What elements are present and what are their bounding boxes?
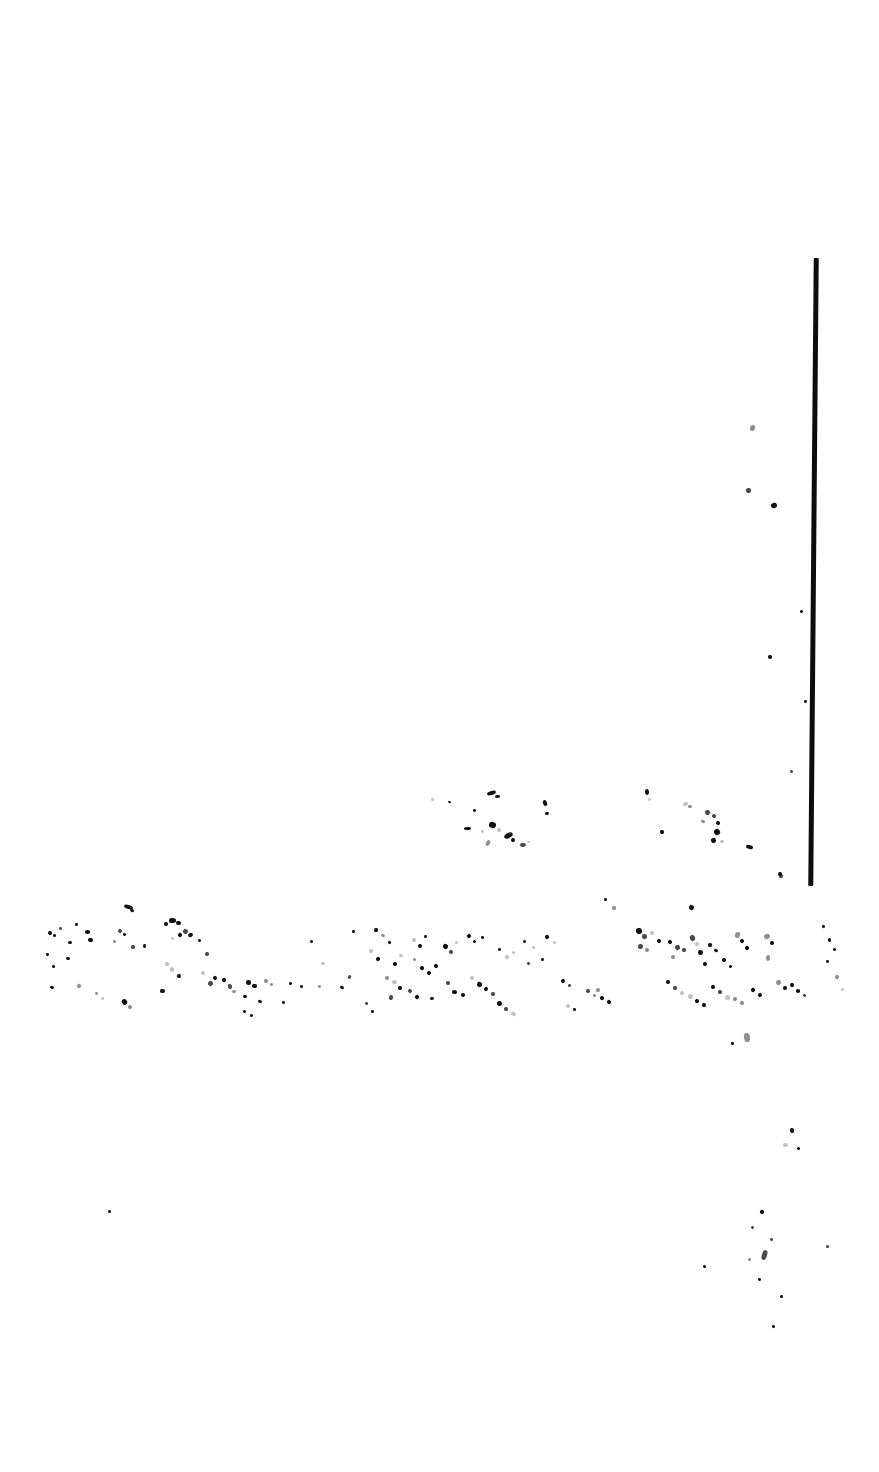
main-band-speck: [446, 981, 451, 986]
main-band-speck: [473, 940, 477, 944]
upper-band-speck: [645, 789, 649, 795]
main-band-speck: [734, 931, 741, 938]
sparse-speck: [746, 488, 752, 494]
main-band-speck: [392, 980, 397, 985]
main-band-speck: [76, 983, 81, 988]
main-band-speck: [52, 933, 56, 937]
main-band-speck: [840, 987, 844, 991]
main-band-speck: [88, 938, 94, 943]
main-band-speck: [644, 947, 649, 952]
sparse-speck: [759, 1209, 764, 1214]
main-band-speck: [466, 933, 472, 939]
main-band-speck: [221, 977, 226, 982]
main-band-speck: [656, 938, 661, 943]
main-band-speck: [399, 954, 404, 958]
upper-band-speck: [688, 904, 694, 910]
main-band-speck: [702, 1003, 707, 1008]
main-band-speck: [85, 930, 90, 934]
main-band-speck: [269, 982, 273, 986]
lower-sparse-marks: [700, 1030, 870, 1340]
main-band-speck: [821, 924, 825, 928]
sparse-speck: [800, 610, 804, 614]
main-band-speck: [418, 944, 422, 948]
main-band-speck: [497, 1001, 503, 1007]
main-band-speck: [169, 967, 174, 973]
upper-band-speck: [496, 827, 501, 832]
sparse-speck: [770, 1238, 774, 1242]
main-band-speck: [321, 962, 326, 966]
main-band-speck: [763, 933, 770, 940]
main-band-speck: [75, 923, 79, 927]
main-band-speck: [739, 1000, 744, 1005]
main-band-speck: [198, 939, 202, 943]
upper-band-speck: [520, 843, 526, 847]
upper-band-speck: [720, 840, 725, 844]
main-band-speck: [397, 985, 402, 990]
main-band-speck: [201, 971, 206, 976]
upper-band-speck: [701, 820, 706, 824]
main-band-speck: [249, 1013, 253, 1017]
main-band-speck: [442, 943, 449, 950]
main-band-speck: [177, 932, 182, 937]
main-band-speck: [498, 948, 502, 952]
main-band-speck: [694, 998, 699, 1003]
main-band-speck: [725, 995, 730, 1000]
main-band-speck: [95, 992, 98, 995]
main-band-speck: [796, 989, 800, 993]
upper-band-speck: [542, 799, 548, 806]
main-band-speck: [599, 995, 604, 1000]
sparse-speck: [790, 1128, 795, 1133]
main-band-speck: [375, 956, 381, 962]
main-band-speck: [289, 982, 293, 986]
main-band-speck: [553, 941, 557, 945]
main-band-speck: [160, 989, 165, 994]
main-band-speck: [122, 932, 126, 936]
upper-band-speck: [488, 821, 496, 829]
main-band-speck: [733, 997, 738, 1002]
main-band-speck: [368, 948, 373, 953]
upper-band-speck: [481, 830, 485, 834]
main-band-speck: [750, 987, 755, 992]
sparse-speck: [770, 502, 777, 509]
main-band-speck: [414, 994, 419, 999]
main-band-speck: [729, 965, 733, 969]
main-band-speck: [310, 940, 314, 944]
main-band-speck: [679, 990, 684, 995]
main-band-speck: [121, 998, 129, 1006]
main-band-speck: [476, 981, 483, 988]
main-band-speck: [783, 986, 788, 991]
main-band-speck: [790, 983, 795, 988]
main-band-speck: [112, 939, 116, 943]
upper-band-speck: [688, 805, 693, 809]
sparse-speck: [749, 424, 756, 431]
main-band-speck: [481, 936, 485, 940]
main-band-speck: [695, 942, 700, 947]
main-band-speck: [205, 952, 209, 956]
sparse-speck: [761, 1249, 769, 1260]
main-band-speck: [52, 965, 55, 968]
main-fragment-band: [38, 900, 828, 1020]
main-band-speck: [714, 948, 719, 952]
upper-band-speck: [710, 837, 717, 844]
sparse-speck: [783, 1143, 788, 1147]
main-band-speck: [522, 939, 526, 943]
main-band-speck: [393, 962, 398, 967]
main-band-speck: [826, 960, 829, 963]
main-band-speck: [424, 935, 427, 938]
main-band-speck: [300, 985, 303, 988]
main-band-speck: [606, 999, 612, 1005]
main-band-speck: [232, 990, 236, 993]
main-band-speck: [483, 986, 489, 992]
main-band-speck: [352, 930, 356, 934]
main-band-speck: [687, 993, 694, 1000]
main-band-speck: [387, 940, 391, 944]
main-band-speck: [412, 938, 417, 943]
main-band-speck: [739, 938, 745, 944]
upper-band-speck: [511, 838, 516, 843]
main-band-speck: [365, 1002, 368, 1005]
sparse-speck: [780, 1295, 783, 1298]
upper-band-speck: [431, 798, 434, 801]
sparse-speck: [826, 1245, 829, 1248]
main-band-speck: [243, 995, 248, 999]
main-band-speck: [827, 938, 831, 943]
